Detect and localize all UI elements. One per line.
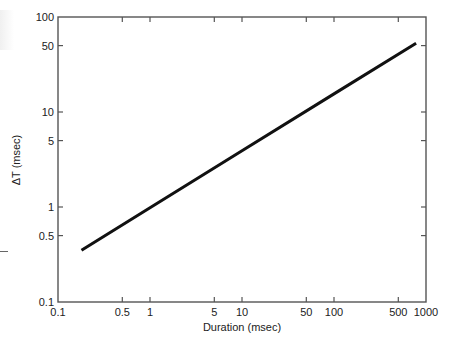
y-tick-label: 1 [48, 201, 54, 213]
x-tick-label: 50 [300, 306, 312, 318]
x-tick-label: 10 [236, 306, 248, 318]
x-tick-label: 5 [211, 306, 217, 318]
x-tick-label: 0.5 [115, 306, 130, 318]
x-tick-label: 500 [389, 306, 407, 318]
y-tick-label: 100 [36, 11, 54, 23]
series [82, 43, 417, 250]
axes [58, 17, 426, 302]
series-line [82, 43, 417, 250]
x-tick-label: 1000 [414, 306, 438, 318]
y-tick-label: 5 [48, 135, 54, 147]
y-tick-label: 10 [42, 106, 54, 118]
y-tick-label: 0.1 [39, 296, 54, 308]
x-axis-label: Duration (msec) [203, 321, 281, 333]
x-tick-label: 100 [325, 306, 343, 318]
ticks: 0.10.515105010050010000.10.5151050100 [36, 11, 439, 318]
y-axis-label: ΔT (msec) [10, 135, 22, 186]
y-tick-label: 50 [42, 40, 54, 52]
chart: 0.10.515105010050010000.10.5151050100 Du… [0, 0, 460, 338]
y-tick-label: 0.5 [39, 230, 54, 242]
plot-frame [58, 17, 426, 302]
x-tick-label: 1 [147, 306, 153, 318]
